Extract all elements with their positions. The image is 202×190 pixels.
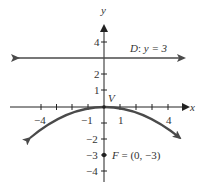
y-tick-label: −4: [86, 165, 98, 177]
y-tick-label: −2: [86, 133, 98, 145]
directrix-label: D: y = 3: [129, 42, 168, 54]
x-tick-label: −4: [34, 114, 46, 126]
vertex-point: [102, 105, 106, 109]
y-tick-label: 4: [94, 36, 100, 48]
y-tick-label: 2: [94, 68, 100, 80]
focus-equals: =: [119, 149, 131, 161]
x-tick-label: −1: [81, 114, 93, 126]
x-tick-label: 4: [166, 114, 172, 126]
x-axis-label: x: [189, 101, 195, 113]
focus-coords: (0, −3): [130, 149, 160, 162]
directrix-equation: y = 3: [143, 42, 168, 54]
parabola-diagram: y x 4 2 1 −2 −3 −4 −4 −1 1 4 V D: y = 3 …: [0, 0, 202, 190]
vertex-label: V: [108, 92, 116, 104]
y-axis: [101, 26, 107, 182]
y-axis-label: y: [100, 4, 106, 16]
y-tick-label: −3: [86, 149, 98, 161]
focus-point: [102, 153, 106, 157]
directrix-name: D: [129, 42, 138, 54]
y-tick-label: 1: [94, 84, 100, 96]
x-tick-label: 1: [118, 114, 124, 126]
focus-label: F = (0, −3): [111, 149, 161, 162]
